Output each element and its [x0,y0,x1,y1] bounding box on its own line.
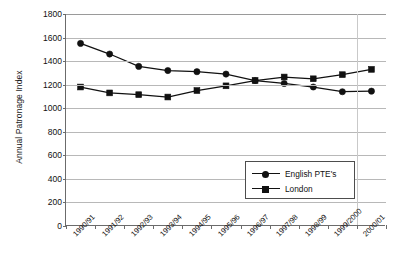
chart-legend: English PTE's London [245,161,355,199]
data-point [223,71,229,77]
y-tick-mark [63,61,66,62]
category-divider [357,14,358,226]
line-chart: Annual Patronage Index 18001600140012001… [0,0,417,280]
data-point [107,90,113,96]
gridline [66,14,386,15]
data-point [281,80,287,86]
y-tick-label: 200 [10,197,62,207]
data-point [369,66,375,72]
gridline [66,155,386,156]
y-tick-mark [63,108,66,109]
x-tick-mark [124,225,125,229]
x-tick-mark [386,225,387,229]
y-tick-label: 1200 [10,80,62,90]
data-point [165,94,171,100]
gridline [66,108,386,109]
y-tick-label: 1000 [10,103,62,113]
legend-marker-square-icon [252,184,280,194]
x-tick-mark [357,225,358,229]
y-tick-mark [63,155,66,156]
legend-label-1: London [285,184,313,194]
x-tick-mark [299,225,300,229]
data-point [165,67,171,73]
gridline [66,38,386,39]
y-tick-mark [63,14,66,15]
data-point [281,74,287,80]
y-tick-mark [63,85,66,86]
x-tick-mark [270,225,271,229]
gridline [66,132,386,133]
y-tick-label: 800 [10,127,62,137]
data-point [77,40,83,46]
data-point [107,51,113,57]
y-tick-label: 400 [10,174,62,184]
data-point [194,88,200,94]
x-tick-mark [153,225,154,229]
x-tick-mark [241,225,242,229]
data-point [194,69,200,75]
data-point [136,63,142,69]
data-point [339,89,345,95]
y-tick-mark [63,132,66,133]
data-point [339,72,345,78]
gridline [66,202,386,203]
data-point [368,88,374,94]
y-tick-label: 1800 [10,9,62,19]
y-tick-label: 600 [10,150,62,160]
x-tick-mark [211,225,212,229]
y-tick-mark [63,202,66,203]
x-tick-mark [95,225,96,229]
legend-label-0: English PTE's [285,169,336,179]
y-tick-label: 1600 [10,33,62,43]
legend-marker-circle-icon [252,169,280,179]
x-tick-mark [328,225,329,229]
y-tick-mark [63,38,66,39]
x-tick-mark [182,225,183,229]
legend-item-1: London [252,181,348,196]
y-tick-mark [63,179,66,180]
legend-item-0: English PTE's [252,166,348,181]
gridline [66,85,386,86]
data-point [252,78,258,84]
x-tick-mark [66,225,67,229]
y-tick-label: 1400 [10,56,62,66]
gridline [66,61,386,62]
y-axis-title: Annual Patronage Index [14,52,24,182]
data-point [310,76,316,82]
data-point [136,92,142,98]
y-tick-label: 0 [10,221,62,231]
